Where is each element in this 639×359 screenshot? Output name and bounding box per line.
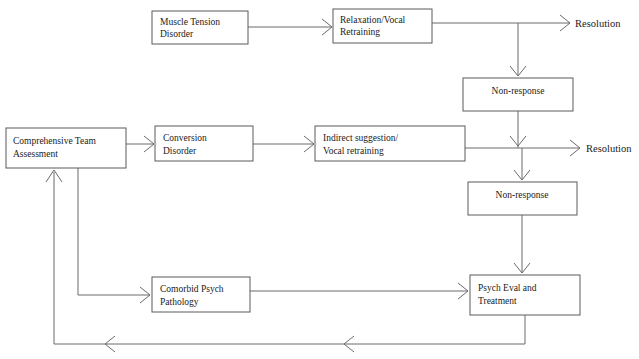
label-resolution-upper: Resolution — [575, 18, 621, 29]
edge-assessment-to-comorbid — [78, 168, 150, 295]
node-layer: Muscle Tension Disorder Relaxation/Vocal… — [6, 9, 580, 315]
node-label-non-response-upper: Non-response — [492, 86, 545, 96]
node-comprehensive-team-assessment[interactable]: Comprehensive Team Assessment — [6, 128, 126, 168]
node-label-relaxation-vocal-retraining-line1: Relaxation/Vocal — [340, 15, 406, 25]
node-label-psych-eval-and-treatment-line2: Treatment — [478, 296, 517, 306]
node-label-comprehensive-team-assessment-line1: Comprehensive Team — [13, 136, 96, 146]
node-non-response-upper[interactable]: Non-response — [463, 78, 573, 111]
node-comorbid-psych-pathology[interactable]: Comorbid Psych Pathology — [152, 277, 250, 312]
flowchart-canvas: Muscle Tension Disorder Relaxation/Vocal… — [0, 0, 639, 359]
node-label-psych-eval-and-treatment-line1: Psych Eval and — [478, 283, 537, 293]
free-label-layer: Resolution Resolution — [575, 18, 632, 154]
node-label-indirect-suggestion-line1: Indirect suggestion/ — [323, 133, 399, 143]
edge-psych-eval-feedback-to-assessment — [54, 172, 525, 344]
node-label-non-response-lower: Non-response — [496, 190, 549, 200]
node-conversion-disorder[interactable]: Conversion Disorder — [155, 126, 253, 161]
node-label-conversion-disorder-line2: Disorder — [163, 146, 197, 156]
node-box-psych-eval-and-treatment[interactable] — [470, 275, 580, 315]
node-relaxation-vocal-retraining[interactable]: Relaxation/Vocal Retraining — [333, 9, 432, 43]
node-label-relaxation-vocal-retraining-line2: Retraining — [340, 27, 380, 37]
node-non-response-lower[interactable]: Non-response — [468, 182, 577, 215]
node-muscle-tension-disorder[interactable]: Muscle Tension Disorder — [152, 11, 248, 44]
label-resolution-lower: Resolution — [586, 143, 632, 154]
node-psych-eval-and-treatment[interactable]: Psych Eval and Treatment — [470, 275, 580, 315]
node-box-muscle-tension-disorder[interactable] — [152, 11, 248, 44]
node-label-muscle-tension-disorder-line2: Disorder — [160, 29, 194, 39]
node-indirect-suggestion-vocal-retraining[interactable]: Indirect suggestion/ Vocal retraining — [315, 126, 465, 161]
node-box-comprehensive-team-assessment[interactable] — [6, 128, 126, 168]
node-label-conversion-disorder-line1: Conversion — [163, 133, 207, 143]
node-label-comorbid-psych-pathology-line1: Comorbid Psych — [160, 284, 224, 294]
node-label-indirect-suggestion-line2: Vocal retraining — [323, 146, 384, 156]
node-label-comorbid-psych-pathology-line2: Pathology — [160, 297, 199, 307]
node-label-comprehensive-team-assessment-line2: Assessment — [13, 149, 58, 159]
node-label-muscle-tension-disorder-line1: Muscle Tension — [160, 17, 220, 27]
flowchart-diagram: Muscle Tension Disorder Relaxation/Vocal… — [0, 0, 639, 359]
